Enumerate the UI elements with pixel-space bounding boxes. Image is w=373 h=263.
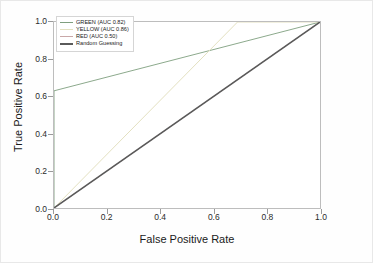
legend-item-random: Random Guessing	[60, 41, 129, 48]
legend-label-green: GREEN (AUC 0.82)	[76, 20, 125, 26]
legend: GREEN (AUC 0.82) YELLOW (AUC 0.86) RED (…	[56, 16, 134, 52]
legend-swatch-green	[60, 22, 73, 23]
legend-label-yellow: YELLOW (AUC 0.86)	[76, 27, 129, 33]
legend-label-red: RED (AUC 0.50)	[76, 34, 117, 40]
roc-curve-figure: 1.0 0.8 0.6 0.4 0.2 0.0 0.0 0.2 0.4 0.6 …	[0, 0, 373, 263]
legend-swatch-random	[60, 43, 73, 45]
x-tick-label: 0.2	[87, 213, 127, 222]
y-axis-title: True Positive Rate	[12, 32, 24, 182]
x-tick-label: 0.4	[140, 213, 180, 222]
x-tick-label: 1.0	[301, 213, 341, 222]
x-tick-label: 0.6	[194, 213, 234, 222]
x-axis-title: False Positive Rate	[53, 233, 321, 245]
legend-label-random: Random Guessing	[76, 41, 122, 47]
legend-swatch-yellow	[60, 29, 73, 30]
y-tick-label: 1.0	[7, 17, 47, 26]
legend-swatch-red	[60, 36, 73, 37]
x-tick-label: 0.8	[247, 213, 287, 222]
x-tick-label: 0.0	[33, 213, 73, 222]
